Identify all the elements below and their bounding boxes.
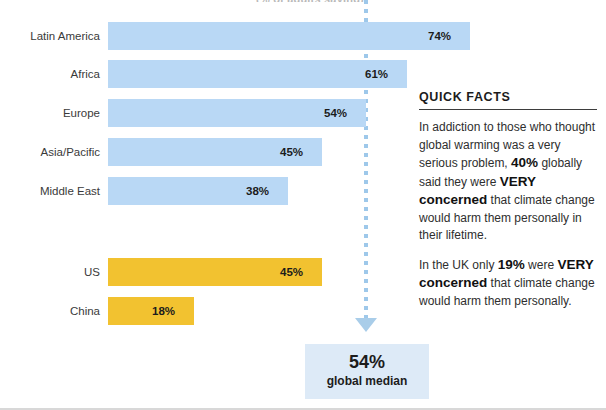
bar-label: Latin America	[0, 22, 100, 50]
chart-row: Middle East 38%	[0, 177, 410, 205]
quick-facts-paragraph-2: In the UK only 19% were VERY concerned t…	[419, 256, 597, 311]
bar-label: China	[0, 297, 100, 325]
global-median-caption: global median	[305, 373, 429, 389]
bar-label: Africa	[0, 60, 100, 88]
quick-facts-panel: QUICK FACTS In addiction to those who th…	[419, 90, 597, 321]
fact1-stat: 40%	[511, 155, 538, 170]
fact2-stat: 19%	[498, 257, 525, 272]
bar-value: 45%	[280, 138, 303, 166]
bar-label: Asia/Pacific	[0, 138, 100, 166]
chart-row: Asia/Pacific 45%	[0, 138, 410, 166]
bar-china	[108, 297, 194, 325]
chart-row: China 18%	[0, 297, 410, 325]
bar-value: 54%	[324, 99, 347, 127]
bar-latin-america	[108, 22, 470, 50]
bar-value: 74%	[428, 22, 451, 50]
chart-row: Europe 54%	[0, 99, 410, 127]
quick-facts-divider	[419, 109, 597, 110]
quick-facts-heading: QUICK FACTS	[419, 90, 597, 109]
chart-row: Latin America 74%	[0, 22, 410, 50]
quick-facts-paragraph-1: In addiction to those who thought global…	[419, 119, 597, 245]
bar-label: US	[0, 258, 100, 286]
global-median-value: 54%	[305, 351, 429, 373]
bar-value: 61%	[365, 60, 388, 88]
chart-row: US 45%	[0, 258, 410, 286]
chart-row: Africa 61%	[0, 60, 410, 88]
bar-value: 38%	[246, 177, 269, 205]
bar-value: 45%	[280, 258, 303, 286]
infographic-page: (% of adults saying) Latin America 74% A…	[0, 0, 606, 410]
bar-chart: Latin America 74% Africa 61% Europe 54% …	[0, 0, 410, 340]
fact2-text-a: In the UK only	[419, 258, 498, 272]
bar-africa	[108, 60, 407, 88]
global-median-callout: 54% global median	[305, 344, 429, 399]
bar-label: Europe	[0, 99, 100, 127]
bar-value: 18%	[152, 297, 175, 325]
fact2-text-b: were	[525, 258, 558, 272]
bar-label: Middle East	[0, 177, 100, 205]
